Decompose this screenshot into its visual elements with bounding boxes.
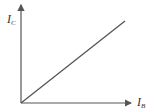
x-axis-label: IB: [137, 96, 145, 109]
y-axis-label: IC: [7, 13, 16, 29]
ic-ib-line: [21, 21, 125, 103]
ic-ib-diagram: [0, 0, 155, 109]
